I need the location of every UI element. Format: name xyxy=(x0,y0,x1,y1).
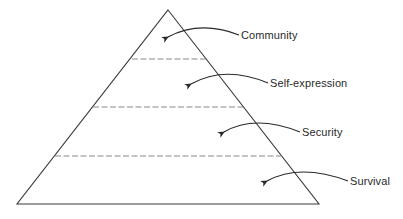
pointer-arrow-icon xyxy=(191,74,268,84)
level-dividers xyxy=(55,59,282,156)
level-label-community: Community xyxy=(241,29,298,42)
pointer-arrow-icon xyxy=(168,28,239,37)
level-label-survival: Survival xyxy=(350,175,390,188)
level-label-security: Security xyxy=(302,126,343,139)
pyramid-diagram xyxy=(0,0,403,219)
pointer-arrow-icon xyxy=(267,172,348,181)
level-arrows xyxy=(168,28,348,181)
level-label-self-expression: Self-expression xyxy=(270,77,347,90)
